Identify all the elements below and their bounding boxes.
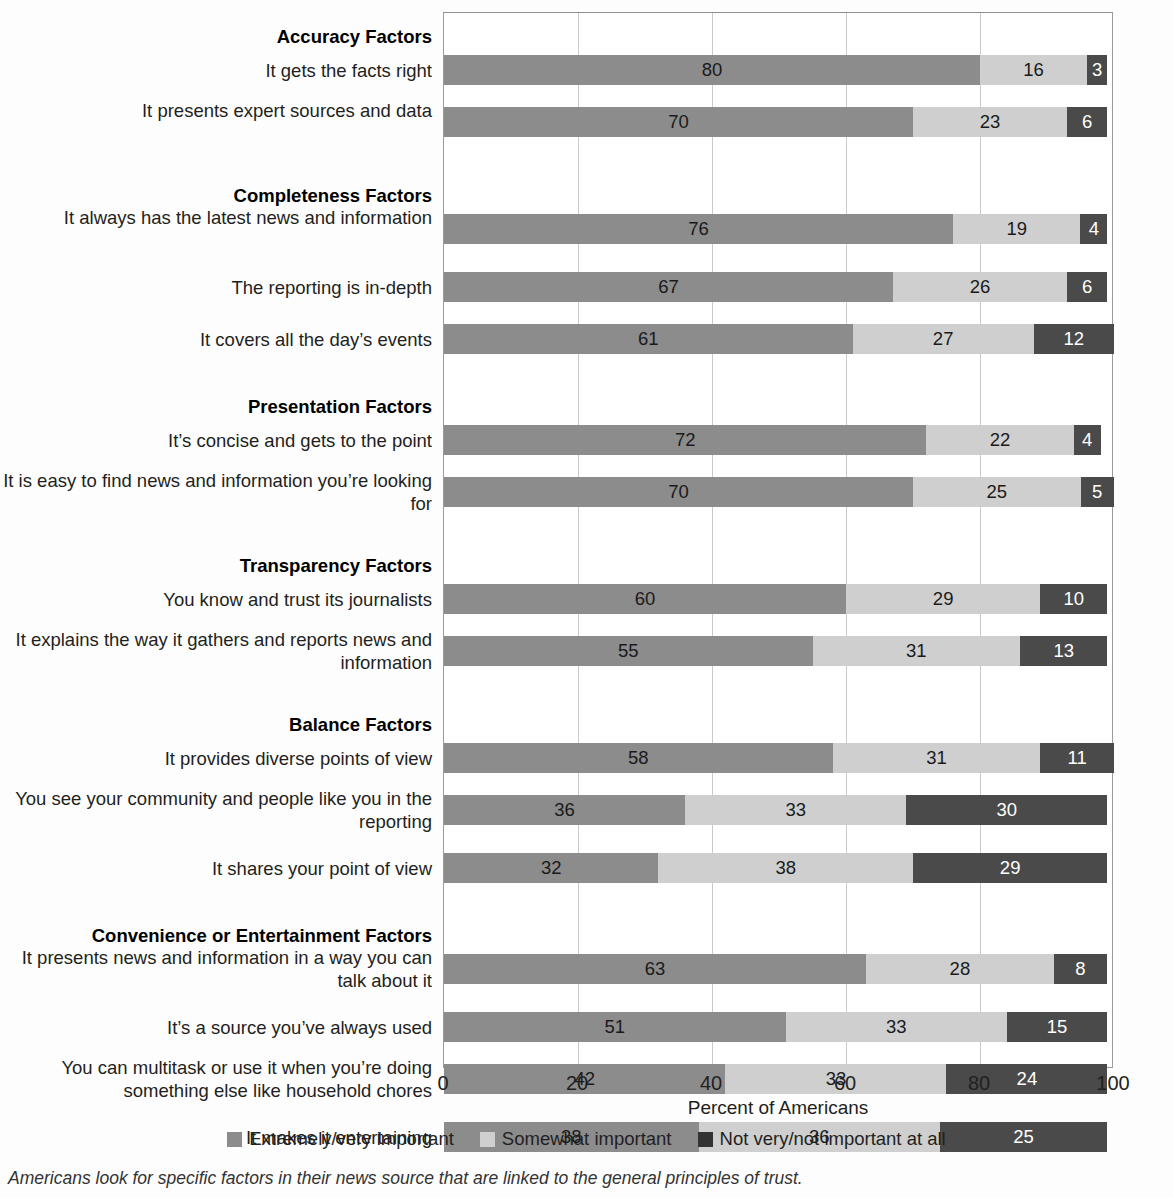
category-label: It explains the way it gathers and repor…	[0, 628, 432, 674]
plot-area	[443, 12, 1113, 1068]
gridline-80	[980, 13, 981, 1067]
bar-segment-2: 26	[893, 272, 1067, 302]
bar-segment-1: 80	[444, 55, 980, 85]
legend-swatch-icon	[698, 1132, 713, 1147]
bar-segment-2: 31	[833, 743, 1041, 773]
category-label: It presents expert sources and data	[0, 99, 432, 122]
bar-segment-1: 70	[444, 477, 913, 507]
bar-segment-2: 28	[866, 954, 1054, 984]
group-header: Convenience or Entertainment Factors	[0, 925, 432, 947]
category-label: You see your community and people like y…	[0, 787, 432, 833]
stacked-bar: 70255	[444, 477, 1114, 507]
bar-segment-1: 61	[444, 324, 853, 354]
bar-segment-1: 32	[444, 853, 658, 883]
category-label: It’s a source you’ve always used	[0, 1016, 432, 1039]
bar-segment-1: 51	[444, 1012, 786, 1042]
bar-segment-1: 60	[444, 584, 846, 614]
bar-segment-3: 10	[1040, 584, 1107, 614]
bar-segment-3: 6	[1067, 107, 1107, 137]
legend-label: Somewhat important	[502, 1128, 672, 1150]
x-tick-20: 20	[566, 1072, 588, 1095]
category-label: It covers all the day’s events	[0, 328, 432, 351]
bar-segment-3: 15	[1007, 1012, 1108, 1042]
category-label: It provides diverse points of view	[0, 747, 432, 770]
legend-swatch-icon	[480, 1132, 495, 1147]
stacked-bar: 80163	[444, 55, 1114, 85]
category-label: The reporting is in-depth	[0, 276, 432, 299]
group-header: Balance Factors	[0, 714, 432, 736]
stacked-bar: 63288	[444, 954, 1114, 984]
category-label: It always has the latest news and inform…	[0, 206, 432, 229]
bar-segment-3: 5	[1081, 477, 1115, 507]
legend-label: Extremely/very important	[249, 1128, 454, 1150]
bar-segment-3: 8	[1054, 954, 1108, 984]
category-label: It shares your point of view	[0, 857, 432, 880]
stacked-bar: 513315	[444, 1012, 1114, 1042]
stacked-bar: 553113	[444, 636, 1114, 666]
gridline-40	[712, 13, 713, 1067]
bar-segment-2: 31	[813, 636, 1021, 666]
group-header: Transparency Factors	[0, 555, 432, 577]
bar-segment-2: 33	[685, 795, 906, 825]
stacked-bar: 70236	[444, 107, 1114, 137]
bar-segment-2: 23	[913, 107, 1067, 137]
x-tick-0: 0	[437, 1072, 448, 1095]
bar-segment-1: 72	[444, 425, 926, 455]
category-label: It’s concise and gets to the point	[0, 429, 432, 452]
gridline-20	[578, 13, 579, 1067]
chart-title	[443, 0, 1113, 4]
bar-segment-3: 6	[1067, 272, 1107, 302]
category-label: It is easy to find news and information …	[0, 469, 432, 515]
stacked-bar: 602910	[444, 584, 1114, 614]
stacked-bar: 363330	[444, 795, 1114, 825]
group-header: Completeness Factors	[0, 185, 432, 207]
bar-segment-3: 29	[913, 853, 1107, 883]
stacked-bar: 583111	[444, 743, 1114, 773]
bar-segment-2: 22	[926, 425, 1073, 455]
bar-segment-2: 25	[913, 477, 1081, 507]
legend-item: Not very/not important at all	[698, 1128, 946, 1150]
category-label: It presents news and information in a wa…	[0, 946, 432, 992]
bar-segment-2: 16	[980, 55, 1087, 85]
stacked-bar: 323829	[444, 853, 1114, 883]
bar-segment-3: 12	[1034, 324, 1114, 354]
category-label: You can multitask or use it when you’re …	[0, 1056, 432, 1102]
chart-area: Accuracy FactorsIt gets the facts right8…	[0, 0, 1173, 1075]
bar-segment-1: 36	[444, 795, 685, 825]
bar-segment-3: 11	[1040, 743, 1114, 773]
bar-segment-2: 38	[658, 853, 913, 883]
category-label: It gets the facts right	[0, 59, 432, 82]
stacked-bar: 72224	[444, 425, 1114, 455]
legend-label: Not very/not important at all	[720, 1128, 946, 1150]
stacked-bar: 612712	[444, 324, 1114, 354]
bar-segment-3: 3	[1087, 55, 1107, 85]
bar-segment-1: 58	[444, 743, 833, 773]
gridline-60	[846, 13, 847, 1067]
group-header: Accuracy Factors	[0, 26, 432, 48]
x-tick-100: 100	[1096, 1072, 1129, 1095]
bar-segment-2: 27	[853, 324, 1034, 354]
bar-segment-2: 29	[846, 584, 1040, 614]
bar-segment-1: 70	[444, 107, 913, 137]
legend-swatch-icon	[227, 1132, 242, 1147]
x-tick-80: 80	[968, 1072, 990, 1095]
bar-segment-1: 55	[444, 636, 813, 666]
legend-item: Extremely/very important	[227, 1128, 454, 1150]
stacked-bar: 76194	[444, 214, 1114, 244]
bar-segment-3: 30	[906, 795, 1107, 825]
figure-caption: Americans look for specific factors in t…	[8, 1168, 1168, 1189]
category-label: You know and trust its journalists	[0, 588, 432, 611]
stacked-bar: 67266	[444, 272, 1114, 302]
bar-segment-3: 13	[1020, 636, 1107, 666]
x-axis-label: Percent of Americans	[443, 1097, 1113, 1119]
x-tick-40: 40	[700, 1072, 722, 1095]
bar-segment-3: 4	[1080, 214, 1107, 244]
chart-legend: Extremely/very importantSomewhat importa…	[0, 1128, 1173, 1150]
legend-item: Somewhat important	[480, 1128, 672, 1150]
bar-segment-1: 76	[444, 214, 953, 244]
bar-segment-3: 4	[1074, 425, 1101, 455]
bar-segment-2: 19	[953, 214, 1080, 244]
chart-page: Accuracy FactorsIt gets the facts right8…	[0, 0, 1173, 1198]
x-tick-60: 60	[834, 1072, 856, 1095]
group-header: Presentation Factors	[0, 396, 432, 418]
